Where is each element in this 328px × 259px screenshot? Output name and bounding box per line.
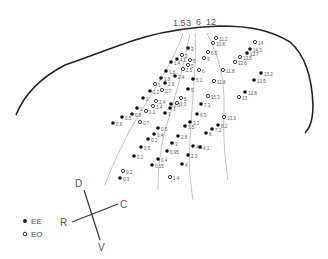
eo-point — [175, 101, 178, 104]
brain-map-diagram: 1.53612 11.210.81414.313.713.512.636.594… — [0, 0, 328, 259]
point-value-label: 4.1 — [203, 146, 210, 151]
eo-point — [197, 68, 200, 71]
eo-point — [222, 115, 225, 118]
point-value-label: 0.95 — [170, 150, 179, 155]
ee-point — [163, 111, 167, 115]
ee-point — [163, 81, 167, 85]
eo-point — [138, 120, 141, 123]
ee-point — [156, 126, 160, 130]
eo-point — [153, 82, 156, 85]
point-value-label: 12.8 — [248, 91, 257, 96]
point-value-label: 1.4 — [174, 61, 181, 66]
eo-point — [221, 68, 224, 71]
point-value-label: 4 — [185, 163, 188, 168]
eo-point — [186, 63, 189, 66]
point-value-label: 1.4 — [173, 176, 180, 181]
isochrone-label: 1.5 — [173, 18, 186, 28]
ee-point — [186, 153, 190, 157]
ee-point — [198, 145, 202, 149]
ee-point — [111, 121, 115, 125]
point-value-label: 0.4 — [157, 133, 164, 138]
ee-point — [118, 176, 122, 180]
point-value-label: 2.5 — [186, 68, 193, 73]
ee-point — [135, 106, 139, 110]
point-value-label: 6 — [209, 132, 212, 137]
orientation-compass: DCRV — [60, 178, 127, 253]
point-value-label: 10.3 — [211, 95, 220, 100]
point-value-label: 6.3 — [200, 113, 207, 118]
ee-point — [186, 46, 190, 50]
compass-label-c: C — [120, 199, 127, 210]
ee-point — [173, 74, 177, 78]
eo-point — [181, 67, 184, 70]
legend-ee-symbol — [23, 219, 27, 223]
point-value-label: 7.3 — [204, 103, 211, 108]
ee-point — [204, 131, 208, 135]
point-value-label: 0.15 — [155, 164, 164, 169]
point-value-label: 13.3 — [227, 116, 236, 121]
ee-point — [120, 115, 124, 119]
point-value-label: 1.4 — [156, 105, 163, 110]
eo-point — [179, 96, 182, 99]
ee-point — [165, 149, 169, 153]
point-value-label: 1.1 — [149, 110, 156, 115]
legend-eo-symbol — [23, 232, 27, 236]
point-value-label: 11.8 — [217, 80, 226, 85]
point-value-label: 15.2 — [264, 72, 273, 77]
compass-label-r: R — [60, 217, 67, 228]
ee-point — [252, 78, 256, 82]
eo-point — [233, 60, 236, 63]
point-value-label: 2.3 — [191, 154, 198, 159]
ee-point — [168, 106, 172, 110]
legend-ee-label: EE — [31, 217, 42, 226]
dorsal-ventral-axis — [84, 190, 100, 240]
eo-point — [202, 56, 205, 59]
ee-point — [245, 51, 249, 55]
eo-point — [238, 55, 241, 58]
ee-point — [141, 96, 145, 100]
eo-point — [206, 94, 209, 97]
point-value-label: 0.8 — [135, 113, 142, 118]
rostral-caudal-axis — [72, 204, 118, 222]
eo-point — [211, 41, 214, 44]
ee-point — [186, 87, 190, 91]
eo-point — [160, 88, 163, 91]
point-value-label: 3 — [185, 54, 188, 59]
eo-point — [168, 175, 171, 178]
point-value-label: 0.7 — [143, 121, 150, 126]
legend: EE EO — [23, 217, 43, 239]
point-value-label: 13.5 — [257, 79, 266, 84]
eo-point — [188, 58, 191, 61]
compass-label-d: D — [75, 178, 82, 189]
ee-point — [191, 77, 195, 81]
isochrone-label: 6 — [196, 17, 201, 27]
ee-point — [139, 145, 143, 149]
point-value-label: 0.3 — [151, 138, 158, 143]
point-value-label: 12.6 — [238, 61, 247, 66]
ee-point — [188, 120, 192, 124]
point-value-label: 0.6 — [116, 122, 123, 127]
point-value-label: 3 — [191, 47, 194, 52]
eo-point — [121, 169, 124, 172]
ee-point — [169, 102, 173, 106]
point-value-label: 11.8 — [226, 69, 235, 74]
ee-point — [248, 47, 252, 51]
legend-eo-label: EO — [31, 230, 43, 239]
point-value-label: 2.4 — [178, 75, 185, 80]
eo-point — [206, 50, 209, 53]
ee-point — [183, 124, 187, 128]
ee-point — [259, 71, 263, 75]
compass-label-v: V — [98, 242, 105, 253]
point-value-label: 1 — [140, 107, 143, 112]
eo-point — [180, 53, 183, 56]
diagram-canvas: 1.53612 11.210.81414.313.713.512.636.594… — [0, 0, 328, 259]
eo-point — [212, 79, 215, 82]
isochrone-label: 3 — [186, 18, 191, 28]
point-value-label: 0.2 — [137, 155, 144, 160]
point-value-label: 10.8 — [216, 42, 225, 47]
ee-point — [148, 89, 152, 93]
point-value-label: 0.5 — [161, 127, 168, 132]
eo-point — [144, 109, 147, 112]
point-value-label: 0.3 — [123, 177, 130, 182]
ee-point — [150, 163, 154, 167]
